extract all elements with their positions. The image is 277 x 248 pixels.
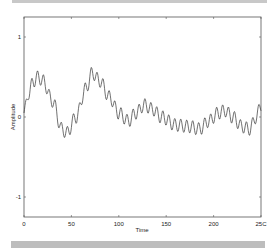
x-tick-label: 150 (161, 221, 172, 227)
line-chart: 05010015020025C 10-1 Time Amplitude (0, 0, 277, 248)
x-tick-label: 100 (114, 221, 125, 227)
y-axis-label: Amplitude (10, 103, 16, 130)
bottom-gray-bar (11, 241, 265, 248)
x-axis-label: Time (135, 227, 149, 233)
y-tick-label: -1 (16, 194, 22, 200)
y-tick-label: 1 (18, 34, 22, 40)
x-tick-label: 200 (209, 221, 220, 227)
x-tick-label: 0 (22, 221, 26, 227)
y-tick-label: 0 (18, 114, 22, 120)
x-tick-label: 50 (68, 221, 75, 227)
x-tick-label: 25C (255, 221, 267, 227)
